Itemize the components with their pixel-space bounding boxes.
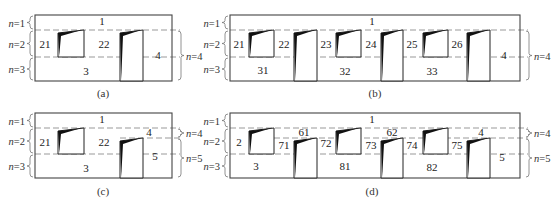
caption-a: (a) — [97, 87, 110, 100]
diagram-canvas: 1212234n=1n=2n=3n=412122232425263132334n… — [0, 0, 555, 206]
caption-c: (c) — [97, 185, 110, 198]
caption-d: (d) — [366, 185, 379, 198]
captions-layer: (a) (b) (c) (d) — [0, 0, 555, 206]
caption-b: (b) — [369, 87, 382, 100]
